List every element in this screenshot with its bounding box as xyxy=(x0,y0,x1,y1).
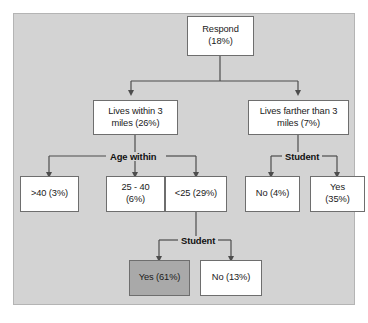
node-age-under-25-text: <25 (29%) xyxy=(175,188,217,200)
node-student-no-farther[interactable]: No (4%) xyxy=(245,176,300,212)
node-age-25-40[interactable]: 25 - 40(6%) xyxy=(106,176,165,212)
node-age-25-40-text: 25 - 40(6%) xyxy=(121,182,149,206)
node-student-no-farther-text: No (4%) xyxy=(256,188,289,200)
node-student-no-under25[interactable]: No (13%) xyxy=(200,260,262,296)
node-respond[interactable]: Respond(18%) xyxy=(187,16,254,56)
node-student-yes-under25[interactable]: Yes (61%) xyxy=(129,260,190,296)
node-student-no-under25-text: No (13%) xyxy=(212,272,250,284)
node-lives-farther-than-3-miles[interactable]: Lives farther than 3miles (7%) xyxy=(248,100,349,135)
node-lives-farther-than-3-miles-text: Lives farther than 3miles (7%) xyxy=(260,106,338,130)
node-lives-within-3-miles[interactable]: Lives within 3miles (26%) xyxy=(93,100,178,135)
edge-label-student-lower: Student xyxy=(178,236,218,245)
node-respond-text: Respond(18%) xyxy=(202,24,239,48)
node-age-under-25[interactable]: <25 (29%) xyxy=(165,176,227,212)
node-age-over-40-text: >40 (3%) xyxy=(31,188,68,200)
decision-tree-figure: Respond(18%) Lives within 3miles (26%) L… xyxy=(0,0,368,323)
node-student-yes-under25-text: Yes (61%) xyxy=(139,272,181,284)
node-student-yes-farther[interactable]: Yes(35%) xyxy=(310,176,365,212)
edge-label-student-right: Student xyxy=(282,152,322,161)
node-lives-within-3-miles-text: Lives within 3miles (26%) xyxy=(108,106,162,130)
edge-label-age-within: Age within xyxy=(107,152,159,161)
node-age-over-40[interactable]: >40 (3%) xyxy=(20,176,79,212)
node-student-yes-farther-text: Yes(35%) xyxy=(325,182,349,206)
